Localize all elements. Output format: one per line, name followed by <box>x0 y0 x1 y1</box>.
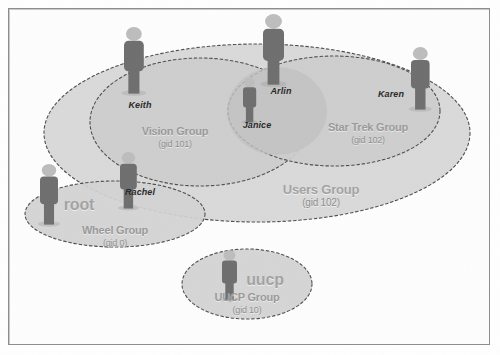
group-label-vision-group: Vision Group <box>142 126 208 138</box>
person-head <box>224 250 236 261</box>
person-torso <box>243 87 256 107</box>
person-legs <box>415 86 425 110</box>
person-head <box>265 14 282 29</box>
diagram-figure: Users Group(gid 102)Vision Group(gid 101… <box>0 0 500 355</box>
person-label-janice: Janice <box>243 121 272 131</box>
person-legs <box>44 202 54 225</box>
person-legs <box>128 69 139 94</box>
person-torso <box>411 60 430 89</box>
group-label-uucp-group: UUCP Group <box>214 292 279 304</box>
group-gid-wheel-group: (gid 0) <box>103 239 127 249</box>
person-label-arlin: Arlin <box>270 87 291 97</box>
person-head <box>122 152 135 164</box>
person-torso <box>120 164 137 190</box>
person-torso <box>263 29 284 61</box>
group-label-star-trek-group: Star Trek Group <box>328 122 408 134</box>
person-label-karen: Karen <box>378 90 404 100</box>
group-gid-users-group: (gid 102) <box>302 198 340 209</box>
person-torso <box>40 177 58 205</box>
group-label-users-group: Users Group <box>283 183 360 197</box>
person-torso <box>124 41 144 71</box>
group-label-wheel-group: Wheel Group <box>82 225 148 237</box>
person-head <box>126 27 142 41</box>
person-head <box>244 78 255 87</box>
person-head <box>413 47 428 60</box>
person-label-rachel: Rachel <box>125 188 155 198</box>
group-gid-vision-group: (gid 101) <box>158 140 192 150</box>
person-label-keith: Keith <box>129 101 152 111</box>
person-legs <box>268 58 280 85</box>
diagram-canvas: Users Group(gid 102)Vision Group(gid 101… <box>0 0 500 355</box>
person-torso <box>222 261 237 284</box>
account-label-root-account: root <box>64 196 94 213</box>
person-head <box>42 164 56 177</box>
group-gid-uucp-group: (gid 10) <box>233 306 262 316</box>
group-gid-star-trek-group: (gid 102) <box>351 136 385 146</box>
account-label-uucp-account: uucp <box>246 271 283 288</box>
